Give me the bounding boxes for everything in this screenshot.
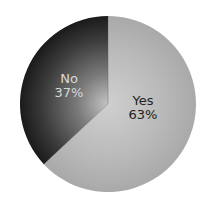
slice-label-no-name: No <box>60 71 78 86</box>
slice-label-no-pct: 37% <box>55 85 84 100</box>
slice-label-yes-name: Yes <box>132 93 154 108</box>
pie-chart: No 37% Yes 63% <box>0 0 200 207</box>
slice-label-yes-pct: 63% <box>129 107 158 122</box>
